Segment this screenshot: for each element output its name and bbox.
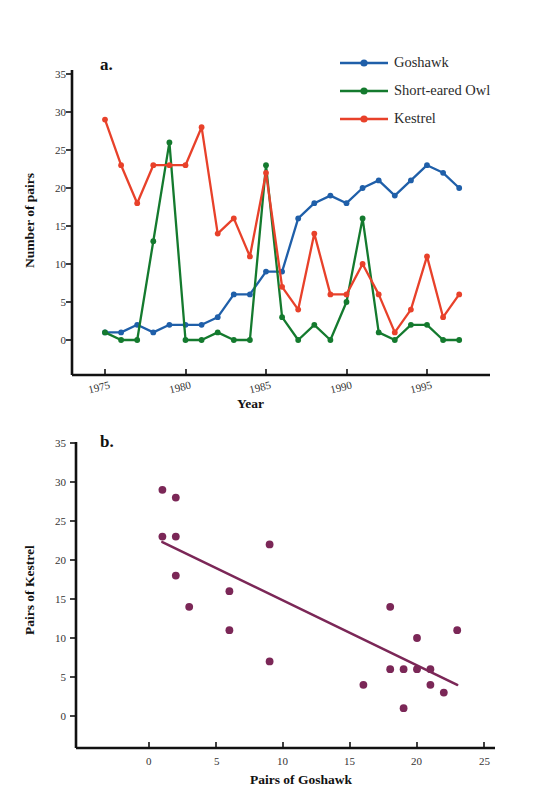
data-point bbox=[247, 254, 253, 260]
data-point bbox=[311, 200, 317, 206]
data-point bbox=[424, 254, 430, 260]
panel-b-regression-line bbox=[162, 542, 457, 685]
data-point bbox=[295, 307, 301, 313]
data-point bbox=[279, 284, 285, 290]
scatter-point bbox=[360, 681, 368, 689]
scatter-point bbox=[440, 689, 448, 697]
data-point bbox=[263, 269, 269, 275]
data-point bbox=[328, 193, 334, 199]
legend-swatches bbox=[340, 59, 388, 122]
data-point bbox=[199, 322, 205, 328]
data-point bbox=[424, 322, 430, 328]
data-point bbox=[295, 216, 301, 222]
data-point bbox=[360, 216, 366, 222]
series-line bbox=[105, 120, 459, 333]
scatter-point bbox=[159, 486, 167, 494]
data-point bbox=[328, 292, 334, 298]
scatter-point bbox=[266, 541, 274, 549]
data-point bbox=[215, 330, 221, 336]
scatter-point bbox=[386, 665, 394, 673]
data-point bbox=[231, 337, 237, 343]
data-point bbox=[167, 322, 173, 328]
data-point bbox=[392, 193, 398, 199]
scatter-point bbox=[400, 704, 408, 712]
data-point bbox=[167, 162, 173, 168]
data-point bbox=[392, 337, 398, 343]
scatter-point bbox=[226, 587, 234, 595]
scatter-point bbox=[400, 665, 408, 673]
data-point bbox=[231, 292, 237, 298]
data-point bbox=[456, 337, 462, 343]
data-point bbox=[167, 140, 173, 146]
data-point bbox=[118, 330, 124, 336]
data-point bbox=[376, 330, 382, 336]
legend-swatch-goshawk[interactable] bbox=[340, 59, 388, 66]
data-point bbox=[199, 124, 205, 130]
data-point bbox=[440, 314, 446, 320]
data-point bbox=[183, 337, 189, 343]
data-point bbox=[150, 238, 156, 244]
data-point bbox=[231, 216, 237, 222]
data-point bbox=[392, 330, 398, 336]
data-point bbox=[456, 185, 462, 191]
data-point bbox=[215, 231, 221, 237]
scatter-point bbox=[453, 626, 461, 634]
panel-b-axes bbox=[70, 442, 495, 748]
data-point bbox=[376, 178, 382, 184]
scatter-point bbox=[427, 681, 435, 689]
data-point bbox=[150, 330, 156, 336]
data-point bbox=[102, 330, 108, 336]
data-point bbox=[150, 162, 156, 168]
data-point bbox=[183, 162, 189, 168]
data-point bbox=[424, 162, 430, 168]
data-point bbox=[456, 292, 462, 298]
scatter-point bbox=[172, 572, 180, 580]
data-point bbox=[408, 178, 414, 184]
legend-swatch-short-eared-owl[interactable] bbox=[340, 87, 388, 94]
data-point bbox=[215, 314, 221, 320]
data-point bbox=[440, 170, 446, 176]
data-point bbox=[360, 185, 366, 191]
data-point bbox=[247, 292, 253, 298]
data-point bbox=[247, 337, 253, 343]
scatter-point bbox=[185, 603, 193, 611]
data-point bbox=[199, 337, 205, 343]
scatter-point bbox=[226, 626, 234, 634]
data-point bbox=[344, 299, 350, 305]
scatter-point bbox=[159, 533, 167, 541]
data-point bbox=[440, 337, 446, 343]
data-point bbox=[295, 337, 301, 343]
data-point bbox=[118, 162, 124, 168]
data-point bbox=[376, 292, 382, 298]
data-point bbox=[311, 322, 317, 328]
scatter-point bbox=[172, 533, 180, 541]
panel-b-scatter-group bbox=[159, 486, 462, 712]
series-line bbox=[105, 142, 459, 340]
scatter-point bbox=[413, 634, 421, 642]
data-point bbox=[344, 200, 350, 206]
data-point bbox=[279, 314, 285, 320]
scatter-point bbox=[386, 603, 394, 611]
data-point bbox=[102, 117, 108, 123]
data-point bbox=[134, 337, 140, 343]
data-point bbox=[344, 292, 350, 298]
legend-swatch-kestrel[interactable] bbox=[340, 115, 388, 122]
data-point bbox=[408, 307, 414, 313]
data-point bbox=[263, 170, 269, 176]
data-point bbox=[263, 162, 269, 168]
data-point bbox=[360, 261, 366, 267]
data-point bbox=[328, 337, 334, 343]
figure-graphics bbox=[0, 0, 538, 795]
data-point bbox=[311, 231, 317, 237]
data-point bbox=[408, 322, 414, 328]
scatter-point bbox=[172, 494, 180, 502]
data-point bbox=[118, 337, 124, 343]
data-point bbox=[134, 200, 140, 206]
panel-a-series-group bbox=[102, 117, 462, 343]
figure-container: a. Number of pairs Year 35 30 25 20 15 1… bbox=[0, 0, 538, 795]
scatter-point bbox=[266, 658, 274, 666]
